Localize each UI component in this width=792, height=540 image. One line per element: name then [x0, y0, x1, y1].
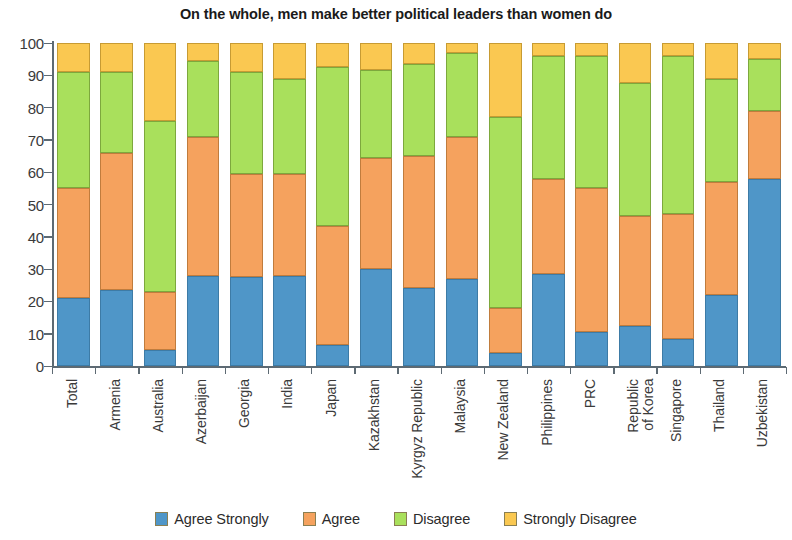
- bar-segment[interactable]: [748, 179, 781, 366]
- bar-column[interactable]: [100, 43, 133, 366]
- bar-segment[interactable]: [619, 326, 652, 366]
- bar-segment[interactable]: [446, 43, 479, 53]
- bar-column[interactable]: [144, 43, 177, 366]
- bar-column[interactable]: [748, 43, 781, 366]
- bar-segment[interactable]: [230, 277, 263, 366]
- x-axis-tick-mark: [268, 367, 269, 374]
- bar-segment[interactable]: [575, 332, 608, 366]
- bar-segment[interactable]: [532, 43, 565, 56]
- bar-segment[interactable]: [144, 350, 177, 366]
- bar-segment[interactable]: [316, 345, 349, 366]
- x-axis-label: Georgia: [237, 379, 252, 428]
- bar-segment[interactable]: [748, 43, 781, 59]
- bar-segment[interactable]: [705, 79, 738, 182]
- bar-segment[interactable]: [230, 43, 263, 72]
- bar-column[interactable]: [446, 43, 479, 366]
- bar-segment[interactable]: [662, 339, 695, 366]
- bar-segment[interactable]: [489, 353, 522, 366]
- bar-segment[interactable]: [619, 216, 652, 326]
- bar-segment[interactable]: [575, 188, 608, 332]
- bar-segment[interactable]: [273, 43, 306, 79]
- bar-segment[interactable]: [619, 83, 652, 215]
- bar-column[interactable]: [403, 43, 436, 366]
- bar-segment[interactable]: [100, 72, 133, 153]
- plot-area: [52, 43, 786, 366]
- bar-segment[interactable]: [662, 56, 695, 214]
- bar-column[interactable]: [316, 43, 349, 366]
- bar-segment[interactable]: [187, 276, 220, 366]
- bar-segment[interactable]: [575, 43, 608, 56]
- x-axis-tick-mark: [656, 367, 657, 374]
- bar-segment[interactable]: [57, 43, 90, 72]
- bar-segment[interactable]: [187, 43, 220, 61]
- bar-segment[interactable]: [273, 276, 306, 366]
- bar-stack: [403, 43, 436, 366]
- bar-segment[interactable]: [662, 214, 695, 338]
- bar-stack: [273, 43, 306, 366]
- bar-segment[interactable]: [446, 137, 479, 279]
- bar-segment[interactable]: [705, 182, 738, 295]
- bar-segment[interactable]: [403, 43, 436, 64]
- stacked-bar-chart: On the whole, men make better political …: [0, 0, 792, 540]
- bar-segment[interactable]: [360, 43, 393, 70]
- bar-column[interactable]: [230, 43, 263, 366]
- bar-column[interactable]: [360, 43, 393, 366]
- bar-column[interactable]: [57, 43, 90, 366]
- legend-item[interactable]: Disagree: [394, 511, 470, 527]
- bar-segment[interactable]: [446, 279, 479, 366]
- bar-segment[interactable]: [360, 70, 393, 157]
- bar-segment[interactable]: [748, 111, 781, 179]
- bar-segment[interactable]: [575, 56, 608, 188]
- bar-segment[interactable]: [316, 43, 349, 67]
- x-axis-label: Total: [65, 379, 80, 408]
- bar-column[interactable]: [575, 43, 608, 366]
- bar-segment[interactable]: [360, 158, 393, 269]
- bar-segment[interactable]: [57, 298, 90, 366]
- bar-segment[interactable]: [748, 59, 781, 111]
- bar-segment[interactable]: [57, 72, 90, 188]
- legend-item[interactable]: Agree Strongly: [155, 511, 269, 527]
- bar-column[interactable]: [705, 43, 738, 366]
- y-axis-tick-label: 20: [4, 293, 44, 310]
- bar-segment[interactable]: [705, 295, 738, 366]
- bar-column[interactable]: [273, 43, 306, 366]
- bar-segment[interactable]: [187, 137, 220, 276]
- bar-segment[interactable]: [100, 290, 133, 366]
- bar-segment[interactable]: [403, 288, 436, 366]
- bar-segment[interactable]: [489, 308, 522, 353]
- bar-segment[interactable]: [403, 156, 436, 288]
- bar-column[interactable]: [619, 43, 652, 366]
- legend-item[interactable]: Agree: [303, 511, 360, 527]
- bar-segment[interactable]: [532, 274, 565, 366]
- bar-segment[interactable]: [532, 56, 565, 179]
- bar-segment[interactable]: [100, 43, 133, 72]
- bar-segment[interactable]: [316, 67, 349, 225]
- bar-column[interactable]: [532, 43, 565, 366]
- bar-segment[interactable]: [532, 179, 565, 274]
- bar-segment[interactable]: [230, 72, 263, 174]
- bar-segment[interactable]: [662, 43, 695, 56]
- bar-segment[interactable]: [187, 61, 220, 137]
- legend-item[interactable]: Strongly Disagree: [504, 511, 637, 527]
- bar-segment[interactable]: [144, 43, 177, 121]
- bar-column[interactable]: [489, 43, 522, 366]
- bar-segment[interactable]: [489, 43, 522, 117]
- bar-segment[interactable]: [57, 188, 90, 298]
- bar-segment[interactable]: [100, 153, 133, 290]
- x-axis-label: Malaysia: [453, 379, 468, 433]
- bar-segment[interactable]: [144, 292, 177, 350]
- bar-column[interactable]: [187, 43, 220, 366]
- bar-segment[interactable]: [144, 121, 177, 292]
- bar-segment[interactable]: [446, 53, 479, 137]
- bar-segment[interactable]: [273, 174, 306, 276]
- bar-segment[interactable]: [705, 43, 738, 79]
- bar-segment[interactable]: [273, 79, 306, 174]
- bar-segment[interactable]: [316, 226, 349, 346]
- bar-segment[interactable]: [230, 174, 263, 277]
- bar-column[interactable]: [662, 43, 695, 366]
- x-axis-label: Thailand: [712, 379, 727, 432]
- bar-segment[interactable]: [403, 64, 436, 156]
- bar-segment[interactable]: [619, 43, 652, 83]
- bar-segment[interactable]: [489, 117, 522, 308]
- bar-segment[interactable]: [360, 269, 393, 366]
